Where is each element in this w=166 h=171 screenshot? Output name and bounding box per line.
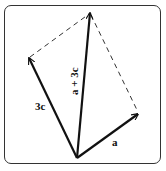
- vector-diagram: 3c a a + 3c: [0, 0, 166, 171]
- vector-a-arrow: [77, 114, 138, 158]
- label-3c: 3c: [35, 100, 46, 112]
- label-a-plus-3c: a + 3c: [68, 67, 80, 95]
- dashed-edge-3c-to-sum: [30, 14, 89, 57]
- label-a: a: [112, 136, 118, 148]
- dashed-edge-sum-to-a: [91, 15, 137, 110]
